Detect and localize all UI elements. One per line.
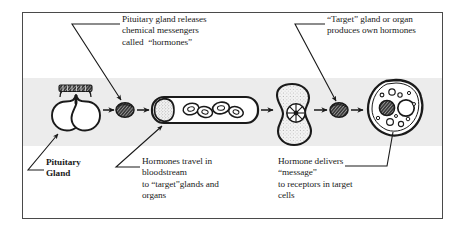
- caption-pituitary-gland-label: Pituitary Gland: [46, 157, 81, 180]
- caption-pituitary-releases: Pituitary gland releases chemical messen…: [122, 14, 207, 48]
- stage-hormone-blob-1: [116, 103, 134, 117]
- stage-pituitary-gland: [52, 85, 100, 131]
- diagram-canvas: Pituitary gland releases chemical messen…: [0, 0, 465, 230]
- stage-target-gland: [277, 84, 311, 145]
- stage-hormone-blob-2: [330, 103, 348, 117]
- caption-target-gland-produces: “Target” gland or organ produces own hor…: [327, 14, 416, 37]
- caption-hormones-travel: Hormones travel in bloodstream to “targe…: [142, 156, 219, 202]
- stage-blood-vessel: [152, 97, 258, 123]
- caption-hormone-delivers-message: Hormone delivers “message” to receptors …: [278, 156, 353, 202]
- stage-target-cell: [368, 80, 422, 136]
